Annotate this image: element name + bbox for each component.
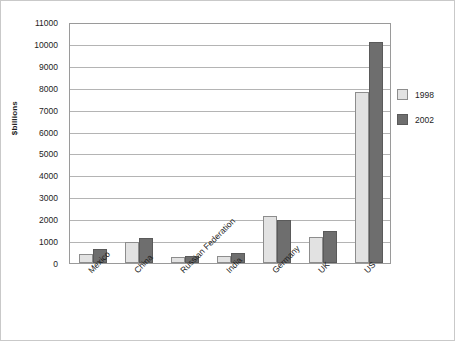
y-tick-label: 3000 <box>39 194 58 203</box>
x-axis-tick-labels: MexicoChinaRussian FederationIndiaGerman… <box>69 265 391 341</box>
y-tick-label: 7000 <box>39 106 58 115</box>
bar-uk-2002[interactable] <box>323 231 337 263</box>
bar-group <box>162 22 208 263</box>
y-tick-label: 1000 <box>39 238 58 247</box>
bar-group <box>254 22 300 263</box>
bar-group <box>346 22 392 263</box>
bar-chart: $billions 110001000090008000700060005000… <box>0 0 455 341</box>
bar-group <box>300 22 346 263</box>
legend-item-2002[interactable]: 2002 <box>397 114 453 125</box>
legend-label: 1998 <box>415 90 434 100</box>
y-tick-label: 6000 <box>39 128 58 137</box>
legend-item-1998[interactable]: 1998 <box>397 89 453 100</box>
y-tick-label: 9000 <box>39 63 58 72</box>
bar-uk-1998[interactable] <box>309 237 323 263</box>
y-axis-tick-labels: 1100010000900080007000600050004000300020… <box>1 1 65 341</box>
y-tick-label: 2000 <box>39 216 58 225</box>
y-tick-label: 0 <box>53 260 58 269</box>
bar-group <box>70 22 116 263</box>
bar-germany-1998[interactable] <box>263 216 277 263</box>
chart-legend: 19982002 <box>397 89 453 139</box>
legend-swatch-icon <box>397 114 408 125</box>
y-tick-label: 11000 <box>35 19 58 28</box>
bar-us-1998[interactable] <box>355 92 369 263</box>
bar-china-1998[interactable] <box>125 242 139 263</box>
legend-label: 2002 <box>415 115 434 125</box>
y-tick-label: 4000 <box>39 172 58 181</box>
bar-us-2002[interactable] <box>369 42 383 263</box>
y-tick-label: 8000 <box>39 84 58 93</box>
bar-group <box>116 22 162 263</box>
y-tick-label: 5000 <box>39 150 58 159</box>
legend-swatch-icon <box>397 89 408 100</box>
y-tick-label: 10000 <box>34 41 58 50</box>
